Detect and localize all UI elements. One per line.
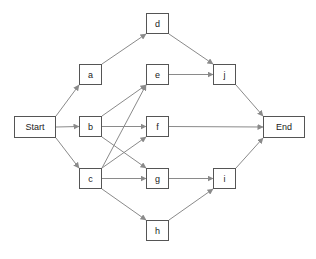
- edge-d-to-j: [169, 34, 213, 64]
- edge-start-to-b: [56, 127, 79, 128]
- edge-b-to-e: [102, 85, 146, 116]
- edge-f-to-end: [169, 127, 263, 128]
- node-c: c: [79, 168, 102, 189]
- node-g: g: [146, 168, 169, 189]
- edge-start-to-c: [56, 138, 79, 168]
- edge-c-to-h: [102, 189, 146, 220]
- node-e: e: [146, 64, 169, 85]
- node-b: b: [79, 116, 102, 137]
- node-start: Start: [14, 116, 56, 138]
- node-i: i: [213, 168, 236, 189]
- node-d: d: [146, 13, 169, 34]
- node-f: f: [146, 116, 169, 137]
- node-a: a: [79, 64, 102, 85]
- network-diagram: StartabcdefghjiEnd: [0, 0, 316, 259]
- edge-i-to-end: [236, 138, 263, 168]
- node-h: h: [146, 220, 169, 241]
- edge-a-to-d: [102, 34, 146, 64]
- node-j: j: [213, 64, 236, 85]
- edge-j-to-end: [236, 85, 263, 116]
- node-end: End: [263, 116, 305, 138]
- edge-h-to-i: [169, 189, 213, 220]
- edge-start-to-a: [56, 85, 79, 116]
